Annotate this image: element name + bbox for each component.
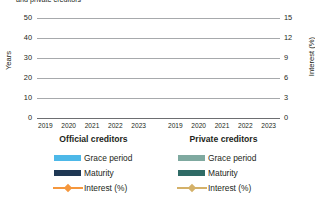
x-tick-official-2019: 2019 — [38, 121, 53, 131]
legend-swatch-grace-period-icon — [52, 152, 84, 163]
x-axis-ticks-official: 2019 2020 2021 2022 2023 — [38, 121, 146, 131]
legend-official: Grace period Maturity Interest (%) — [52, 150, 182, 195]
gridline-10 — [37, 98, 280, 99]
y-tick-right-3: 3 — [284, 94, 314, 102]
panel-title-private: Private creditors — [166, 134, 281, 144]
legend-label-official-grace-period: Grace period — [84, 153, 132, 163]
y-tick-left-40: 40 — [2, 34, 32, 42]
y-tick-right-6: 6 — [284, 74, 314, 82]
legend-item-official-grace-period[interactable]: Grace period — [52, 150, 182, 165]
y-tick-left-30: 30 — [2, 54, 32, 62]
x-tick-private-2020: 2020 — [191, 121, 206, 131]
legend-item-private-interest[interactable]: Interest (%) — [176, 180, 306, 195]
legend-label-private-interest: Interest (%) — [208, 183, 251, 193]
x-tick-private-2019: 2019 — [168, 121, 183, 131]
chart-figure: and private creditors Years Interest (%)… — [0, 0, 315, 201]
legend-private: Grace period Maturity Interest (%) — [176, 150, 306, 195]
legend-label-official-maturity: Maturity — [84, 168, 114, 178]
y-tick-right-0: 0 — [284, 114, 314, 122]
y-tick-right-12: 12 — [284, 34, 314, 42]
plot-area — [37, 18, 280, 119]
legend-swatch-maturity-icon — [52, 167, 84, 178]
figure-suptitle: and private creditors — [16, 0, 81, 4]
legend-item-official-maturity[interactable]: Maturity — [52, 165, 182, 180]
gridline-20 — [37, 78, 280, 79]
gridline-40 — [37, 38, 280, 39]
legend-swatch-interest-line-icon — [176, 182, 208, 193]
legend-swatch-interest-line-icon — [52, 182, 84, 193]
legend-item-official-interest[interactable]: Interest (%) — [52, 180, 182, 195]
x-tick-private-2023: 2023 — [261, 121, 276, 131]
y-tick-left-0: 0 — [2, 114, 32, 122]
legend-swatch-grace-period-icon — [176, 152, 208, 163]
gridline-50 — [37, 18, 280, 19]
x-tick-private-2021: 2021 — [215, 121, 230, 131]
x-tick-official-2020: 2020 — [61, 121, 76, 131]
x-tick-private-2022: 2022 — [238, 121, 253, 131]
gridline-30 — [37, 58, 280, 59]
y-tick-right-15: 15 — [284, 14, 314, 22]
legend-item-private-maturity[interactable]: Maturity — [176, 165, 306, 180]
legend-label-private-grace-period: Grace period — [208, 153, 256, 163]
x-tick-official-2022: 2022 — [108, 121, 123, 131]
x-tick-official-2021: 2021 — [85, 121, 100, 131]
x-axis-baseline — [37, 118, 280, 119]
legend-label-official-interest: Interest (%) — [84, 183, 127, 193]
y-tick-left-20: 20 — [2, 74, 32, 82]
y-tick-right-9: 9 — [284, 54, 314, 62]
y-tick-left-50: 50 — [2, 14, 32, 22]
y-tick-left-10: 10 — [2, 94, 32, 102]
panel-title-official: Official creditors — [36, 134, 151, 144]
legend-swatch-maturity-icon — [176, 167, 208, 178]
x-tick-official-2023: 2023 — [131, 121, 146, 131]
x-axis-ticks-private: 2019 2020 2021 2022 2023 — [168, 121, 276, 131]
legend-label-private-maturity: Maturity — [208, 168, 238, 178]
legend-item-private-grace-period[interactable]: Grace period — [176, 150, 306, 165]
